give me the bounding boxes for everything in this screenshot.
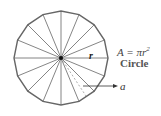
- formula-base: A = πr: [117, 46, 146, 58]
- sector-spoke: [28, 25, 61, 58]
- center-point: [59, 56, 63, 60]
- formula-exponent: 2: [146, 45, 150, 53]
- radius-label: r: [89, 50, 93, 61]
- sector-spoke: [28, 58, 61, 91]
- area-formula: A = πr2: [117, 45, 150, 58]
- shape-name-label: Circle: [120, 57, 149, 69]
- apothem-dashed-line: [61, 58, 86, 96]
- apothem-label: a: [120, 80, 126, 92]
- arrowhead-icon: [113, 84, 118, 88]
